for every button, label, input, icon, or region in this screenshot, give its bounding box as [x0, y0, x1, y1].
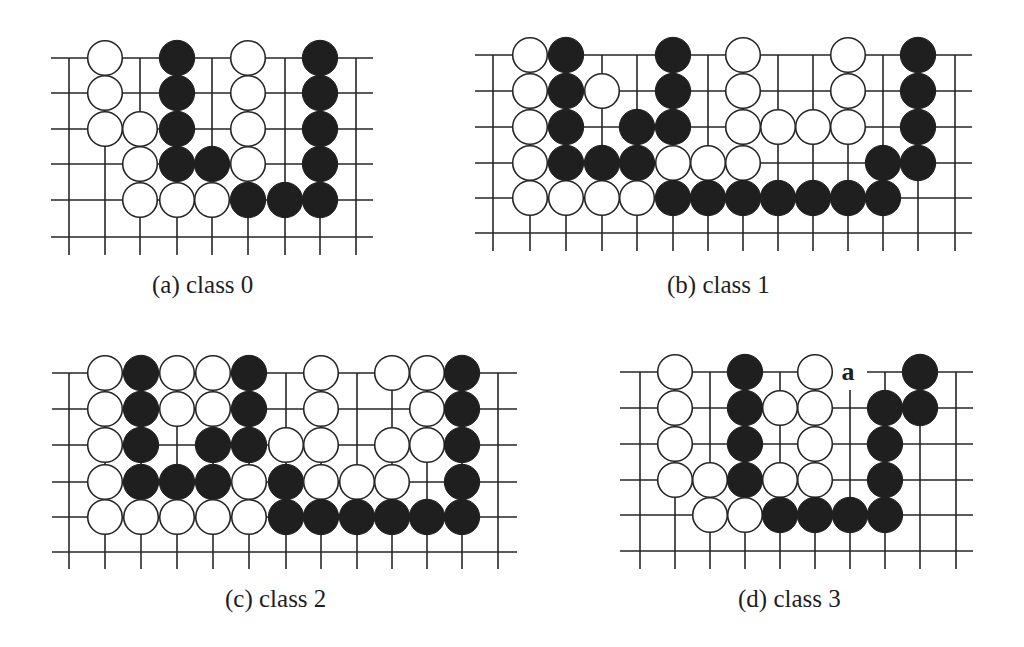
black-stone-icon: [231, 427, 266, 462]
black-stone-icon: [444, 355, 479, 390]
white-stone-icon: [831, 38, 866, 73]
white-stone-icon: [124, 500, 159, 535]
white-stone-icon: [375, 356, 410, 391]
white-stone-icon: [231, 41, 266, 76]
white-stone-icon: [269, 428, 304, 463]
white-stone-icon: [798, 355, 833, 390]
white-stone-icon: [513, 181, 548, 216]
board-panel-a: [51, 40, 373, 255]
black-stone-icon: [444, 391, 479, 426]
white-stone-icon: [304, 465, 339, 500]
white-stone-icon: [726, 146, 761, 181]
black-stone-icon: [655, 180, 690, 215]
caption-class-1: (b) class 1: [667, 272, 770, 297]
black-stone-icon: [159, 111, 194, 146]
black-stone-icon: [902, 354, 937, 389]
black-stone-icon: [900, 37, 935, 72]
black-stone-icon: [444, 427, 479, 462]
black-stone-icon: [302, 111, 337, 146]
white-stone-icon: [304, 356, 339, 391]
white-stone-icon: [798, 391, 833, 426]
white-stone-icon: [160, 500, 195, 535]
black-stone-icon: [619, 145, 654, 180]
white-stone-icon: [513, 146, 548, 181]
black-stone-icon: [727, 354, 762, 389]
black-stone-icon: [159, 464, 194, 499]
black-stone-icon: [727, 426, 762, 461]
white-stone-icon: [160, 392, 195, 427]
black-stone-icon: [762, 497, 797, 532]
white-stone-icon: [693, 463, 728, 498]
caption-class-3: (d) class 3: [738, 586, 841, 611]
white-stone-icon: [658, 463, 693, 498]
white-stone-icon: [232, 500, 267, 535]
black-stone-icon: [230, 182, 265, 217]
white-stone-icon: [726, 74, 761, 109]
black-stone-icon: [795, 180, 830, 215]
black-stone-icon: [760, 180, 795, 215]
black-stone-icon: [655, 73, 690, 108]
white-stone-icon: [798, 427, 833, 462]
black-stone-icon: [902, 390, 937, 425]
black-stone-icon: [727, 462, 762, 497]
black-stone-icon: [867, 497, 902, 532]
white-stone-icon: [88, 356, 123, 391]
black-stone-icon: [830, 180, 865, 215]
black-stone-icon: [900, 145, 935, 180]
black-stone-icon: [231, 391, 266, 426]
white-stone-icon: [726, 110, 761, 145]
white-stone-icon: [831, 110, 866, 145]
black-stone-icon: [584, 145, 619, 180]
white-stone-icon: [410, 392, 445, 427]
white-stone-icon: [88, 428, 123, 463]
white-stone-icon: [513, 110, 548, 145]
black-stone-icon: [832, 497, 867, 532]
white-stone-icon: [196, 356, 231, 391]
black-stone-icon: [123, 464, 158, 499]
white-stone-icon: [160, 356, 195, 391]
black-stone-icon: [548, 145, 583, 180]
white-stone-icon: [656, 146, 691, 181]
black-stone-icon: [123, 427, 158, 462]
black-stone-icon: [409, 499, 444, 534]
black-stone-icon: [195, 464, 230, 499]
white-stone-icon: [585, 181, 620, 216]
black-stone-icon: [797, 497, 832, 532]
black-stone-icon: [267, 182, 302, 217]
black-stone-icon: [900, 109, 935, 144]
black-stone-icon: [867, 390, 902, 425]
black-stone-icon: [302, 182, 337, 217]
white-stone-icon: [375, 465, 410, 500]
black-stone-icon: [195, 427, 230, 462]
white-stone-icon: [620, 181, 655, 216]
black-stone-icon: [655, 37, 690, 72]
black-stone-icon: [194, 146, 229, 181]
black-stone-icon: [374, 499, 409, 534]
white-stone-icon: [763, 463, 798, 498]
go-board-diagrams: a: [0, 0, 1024, 647]
black-stone-icon: [159, 75, 194, 110]
white-stone-icon: [340, 465, 375, 500]
white-stone-icon: [232, 465, 267, 500]
white-stone-icon: [88, 465, 123, 500]
black-stone-icon: [548, 73, 583, 108]
black-stone-icon: [123, 391, 158, 426]
black-stone-icon: [690, 180, 725, 215]
white-stone-icon: [513, 74, 548, 109]
board-panel-c: [52, 355, 517, 569]
white-stone-icon: [88, 500, 123, 535]
white-stone-icon: [831, 74, 866, 109]
black-stone-icon: [867, 426, 902, 461]
black-stone-icon: [159, 146, 194, 181]
black-stone-icon: [655, 109, 690, 144]
black-stone-icon: [865, 145, 900, 180]
black-stone-icon: [867, 462, 902, 497]
white-stone-icon: [231, 112, 266, 147]
black-stone-icon: [339, 499, 374, 534]
black-stone-icon: [268, 464, 303, 499]
white-stone-icon: [123, 183, 158, 218]
white-stone-icon: [196, 392, 231, 427]
white-stone-icon: [196, 500, 231, 535]
white-stone-icon: [195, 183, 230, 218]
white-stone-icon: [658, 391, 693, 426]
